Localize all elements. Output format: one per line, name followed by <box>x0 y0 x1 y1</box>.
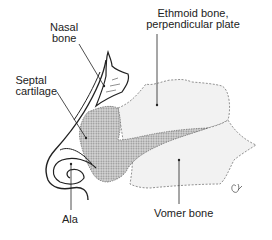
artist-signature <box>232 184 242 192</box>
septal-cartilage-label-line2: cartilage <box>5 86 57 97</box>
ethmoid-label: Ethmoid bone, perpendicular plate <box>118 8 268 30</box>
ala-label: Ala <box>62 214 78 225</box>
septal-cartilage-label: Septal cartilage <box>5 75 57 97</box>
nasal-bone-leader <box>79 44 104 86</box>
nasal-bone-label: Nasal bone <box>50 22 78 44</box>
ethmoid-label-line2: perpendicular plate <box>118 19 268 30</box>
vomer-label: Vomer bone <box>154 208 213 219</box>
nasal-bone-label-line2: bone <box>52 33 78 44</box>
nasal-septum-diagram: Nasal bone Ethmoid bone, perpendicular p… <box>0 0 272 240</box>
diagram-artwork <box>0 0 272 240</box>
